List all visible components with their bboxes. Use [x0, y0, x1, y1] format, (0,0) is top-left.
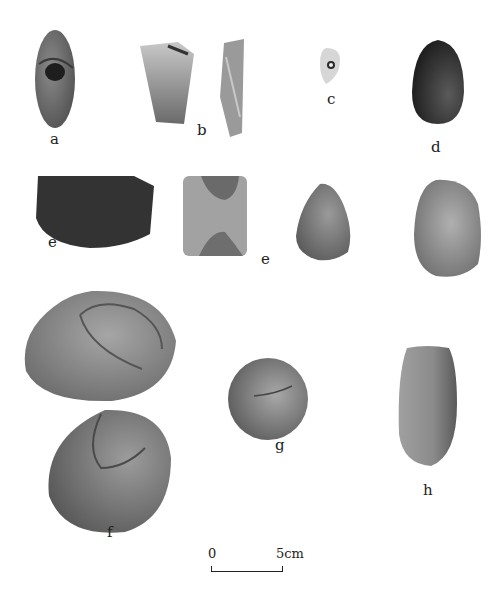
- label-g: g: [275, 438, 285, 453]
- artifact-h-pestle: [397, 344, 459, 468]
- artifact-f-large-pebble: [22, 289, 178, 405]
- artifact-a-pendant: [33, 28, 77, 130]
- scale-start-label: 0: [208, 546, 216, 561]
- artifact-g-hammer-stone: [226, 356, 310, 442]
- artifact-b-blade-face: [138, 40, 196, 126]
- artifact-c-bead: [318, 46, 342, 88]
- label-c: c: [327, 92, 335, 107]
- label-f: f: [107, 525, 113, 540]
- artifact-f-round-pebble: [45, 408, 175, 536]
- label-d: d: [431, 140, 441, 155]
- scale-bar: [211, 566, 283, 572]
- artifact-e-conical-pebble: [294, 182, 354, 262]
- artifact-d-egg-stone: [410, 38, 466, 126]
- artifact-b-blade-side: [218, 37, 246, 139]
- artifact-e-oval-pebble: [412, 178, 484, 280]
- label-a: a: [50, 132, 59, 147]
- label-b: b: [197, 123, 207, 138]
- label-h: h: [423, 483, 433, 498]
- label-e-1: e: [48, 235, 57, 250]
- artifact-e-chisel: [181, 174, 249, 258]
- label-e-2: e: [261, 252, 270, 267]
- scale-end-label: 5cm: [276, 546, 304, 561]
